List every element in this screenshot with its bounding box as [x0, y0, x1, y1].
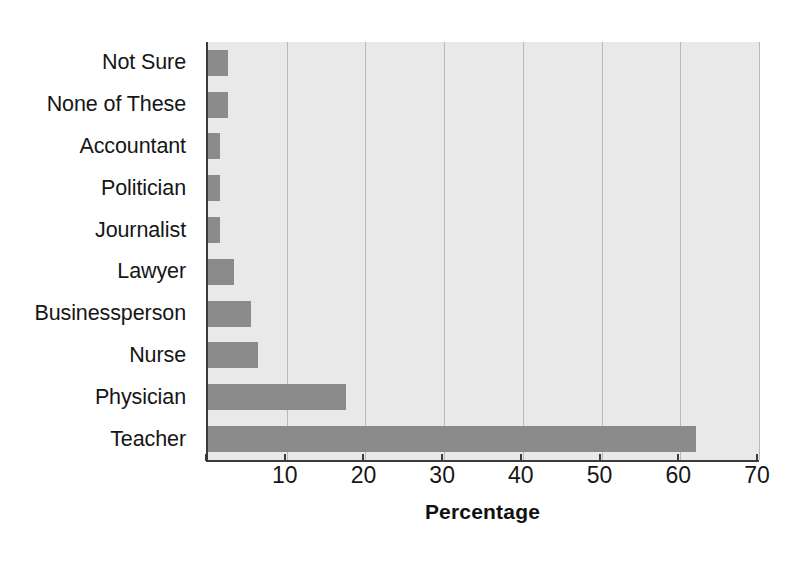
bar: [208, 92, 228, 118]
tick-mark: [599, 454, 601, 461]
category-label: None of These: [0, 84, 196, 126]
category-label: Nurse: [0, 335, 196, 377]
x-tick-label: 50: [587, 462, 613, 489]
bar-row: [208, 376, 759, 418]
tick-mark: [362, 454, 364, 461]
category-label: Not Sure: [0, 42, 196, 84]
gridline: [759, 42, 760, 460]
bar-series: [208, 42, 759, 460]
bar-row: [208, 42, 759, 84]
bar-row: [208, 293, 759, 335]
category-label: Teacher: [0, 418, 196, 460]
tick-mark: [677, 454, 679, 461]
category-label: Politician: [0, 167, 196, 209]
tick-mark: [520, 454, 522, 461]
tick-mark: [441, 454, 443, 461]
bar: [208, 301, 251, 327]
bar: [208, 259, 234, 285]
value-axis-ticks: 10203040506070: [206, 462, 759, 496]
category-label: Businessperson: [0, 293, 196, 335]
bar: [208, 133, 220, 159]
x-tick-label: 70: [744, 462, 770, 489]
category-label: Physician: [0, 376, 196, 418]
bar-row: [208, 167, 759, 209]
x-tick-label: 60: [665, 462, 691, 489]
bar-chart-figure: Not Sure None of These Accountant Politi…: [0, 0, 809, 572]
bar-row: [208, 335, 759, 377]
x-tick-label: 30: [429, 462, 455, 489]
plot-area: [206, 42, 759, 462]
x-axis-title: Percentage: [206, 500, 759, 524]
tick-mark: [284, 454, 286, 461]
bar-row: [208, 251, 759, 293]
bar-row: [208, 126, 759, 168]
category-label: Lawyer: [0, 251, 196, 293]
bar: [208, 175, 220, 201]
x-tick-label: 10: [272, 462, 298, 489]
bar: [208, 50, 228, 76]
tick-mark: [756, 454, 758, 461]
bar: [208, 217, 220, 243]
bar: [208, 426, 696, 452]
x-tick-label: 40: [508, 462, 534, 489]
bar: [208, 384, 346, 410]
tick-mark: [205, 454, 207, 461]
bar-row: [208, 209, 759, 251]
bar-row: [208, 84, 759, 126]
category-label: Journalist: [0, 209, 196, 251]
category-label: Accountant: [0, 126, 196, 168]
bar: [208, 342, 258, 368]
category-axis-labels: Not Sure None of These Accountant Politi…: [0, 42, 196, 460]
x-tick-label: 20: [351, 462, 377, 489]
